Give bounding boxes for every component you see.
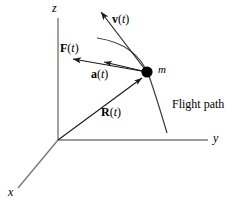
acceleration-paren-close: ) bbox=[104, 67, 108, 81]
particle-mass-label: m bbox=[158, 64, 166, 75]
x-axis-label: x bbox=[8, 186, 13, 198]
particle-mass-dot bbox=[141, 66, 152, 77]
flight-path-label: Flight path bbox=[172, 98, 224, 110]
force-vector-label: F(t) bbox=[60, 42, 79, 54]
position-symbol: R bbox=[101, 105, 110, 119]
position-paren-close: ) bbox=[117, 105, 121, 119]
acceleration-vector-label: a(t) bbox=[91, 68, 108, 80]
y-axis-label: y bbox=[213, 132, 218, 144]
velocity-vector-label: v(t) bbox=[112, 13, 129, 25]
x-axis-line bbox=[18, 140, 58, 188]
force-vector-arrow bbox=[73, 59, 147, 72]
force-paren-close: ) bbox=[75, 41, 79, 55]
position-vector-label: R(t) bbox=[101, 106, 121, 118]
z-axis-label: z bbox=[52, 2, 57, 14]
position-vector-arrow bbox=[58, 78, 142, 140]
velocity-paren-close: ) bbox=[125, 12, 129, 26]
vector-diagram-figure: z y x v(t) F(t) a(t) R(t) m Flight path bbox=[0, 0, 238, 205]
